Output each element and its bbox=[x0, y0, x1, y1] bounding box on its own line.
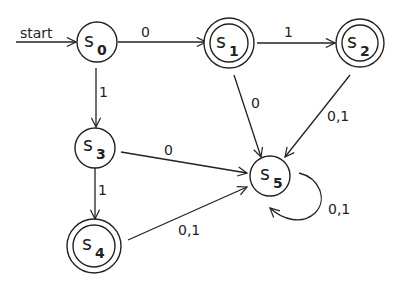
state-s2-accepting: s 2 bbox=[336, 19, 384, 67]
transition-s3-s5: 0 bbox=[121, 142, 247, 173]
state-s0: s 0 bbox=[77, 22, 117, 62]
state-s3: s 3 bbox=[75, 128, 115, 168]
svg-text:5: 5 bbox=[273, 175, 283, 191]
state-s5: s 5 bbox=[250, 156, 290, 196]
transition-label: 0 bbox=[251, 95, 260, 111]
svg-text:4: 4 bbox=[95, 245, 105, 261]
transition-label: 0,1 bbox=[327, 108, 349, 124]
svg-text:3: 3 bbox=[96, 146, 106, 162]
transition-label: 1 bbox=[99, 84, 108, 100]
svg-text:s: s bbox=[216, 30, 226, 52]
transition-label: 1 bbox=[98, 182, 107, 198]
transition-s1-s2: 1 bbox=[257, 24, 335, 43]
transition-s0-s1: 0 bbox=[118, 24, 206, 42]
state-diagram: start 0 1 1 0 0,1 0 1 0,1 0,1 s 0 bbox=[0, 0, 403, 283]
svg-text:s: s bbox=[83, 133, 93, 155]
transition-label: 0 bbox=[141, 24, 150, 40]
svg-text:s: s bbox=[347, 30, 357, 52]
transition-s2-s5: 0,1 bbox=[285, 75, 350, 157]
svg-text:s: s bbox=[82, 232, 92, 254]
state-s4-accepting: s 4 bbox=[67, 219, 121, 273]
svg-text:s: s bbox=[260, 162, 270, 184]
transition-label: 0,1 bbox=[328, 201, 350, 217]
svg-text:1: 1 bbox=[229, 43, 239, 59]
start-arrow: start bbox=[16, 25, 76, 42]
svg-text:0: 0 bbox=[97, 42, 107, 58]
svg-text:s: s bbox=[84, 29, 94, 51]
transition-s0-s3: 1 bbox=[96, 68, 108, 127]
transition-label: 0,1 bbox=[178, 222, 200, 238]
start-label: start bbox=[20, 25, 53, 41]
state-s1-accepting: s 1 bbox=[204, 18, 254, 68]
transition-s1-s5: 0 bbox=[234, 75, 261, 157]
transition-s3-s4: 1 bbox=[95, 168, 107, 219]
transition-label: 0 bbox=[164, 142, 173, 158]
transition-label: 1 bbox=[284, 24, 293, 40]
transition-s4-s5: 0,1 bbox=[128, 187, 247, 240]
svg-text:2: 2 bbox=[360, 43, 370, 59]
